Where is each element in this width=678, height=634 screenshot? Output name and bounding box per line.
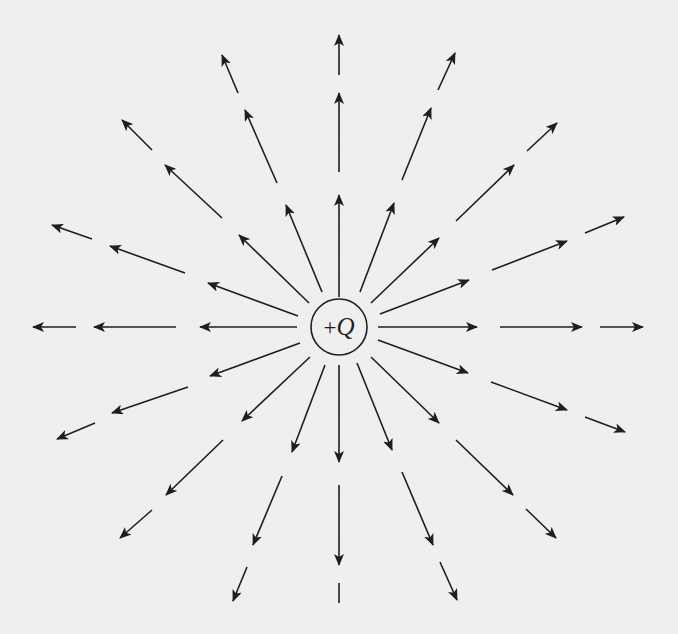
charge-symbol: Q [336,313,354,340]
charge-sign: + [323,315,336,340]
charge-label: +Q [323,313,354,340]
electric-field-diagram: +Q [0,0,678,634]
